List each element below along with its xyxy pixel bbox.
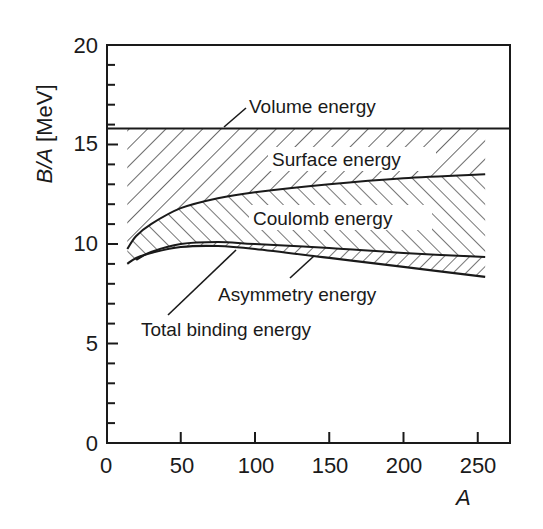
x-tick-label: 50 xyxy=(170,453,194,478)
x-tick-label: 150 xyxy=(312,453,349,478)
y-axis-title-quantity: B/A xyxy=(32,148,57,183)
x-tick-label: 0 xyxy=(100,453,112,478)
asymmetry-energy-label: Asymmetry energy xyxy=(218,284,377,305)
y-tick-label: 5 xyxy=(86,331,98,356)
y-tick-label: 15 xyxy=(74,131,98,156)
total-binding-energy-label: Total binding energy xyxy=(141,319,312,340)
x-tick-labels: 0 50 100 150 200 250 xyxy=(100,453,496,478)
y-axis-title-unit: [MeV] xyxy=(32,84,57,148)
x-tick-label: 250 xyxy=(460,453,497,478)
y-tick-label: 20 xyxy=(74,33,98,58)
total-binding-leader-line xyxy=(168,250,236,315)
binding-energy-chart: 0 5 10 15 20 0 50 100 150 200 250 A B/A … xyxy=(0,0,543,529)
volume-leader-line xyxy=(224,108,246,127)
y-tick-labels: 0 5 10 15 20 xyxy=(74,33,98,456)
volume-energy-label: Volume energy xyxy=(249,96,376,117)
surface-energy-label: Surface energy xyxy=(272,149,401,170)
y-tick-label: 10 xyxy=(74,231,98,256)
x-tick-label: 100 xyxy=(238,453,275,478)
x-tick-label: 200 xyxy=(386,453,423,478)
x-axis-title: A xyxy=(454,485,471,510)
asymmetry-leader-line xyxy=(290,256,314,278)
y-axis-title: B/A [MeV] xyxy=(32,84,57,183)
y-tick-label: 0 xyxy=(86,431,98,456)
coulomb-energy-label: Coulomb energy xyxy=(253,208,393,229)
